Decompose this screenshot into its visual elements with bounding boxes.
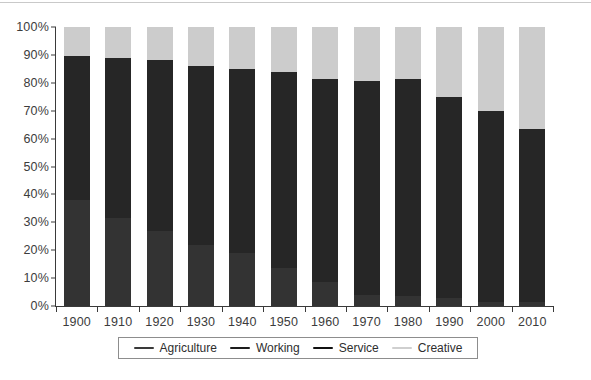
x-axis-tick-label: 1920 [145, 315, 174, 329]
legend-item-agriculture[interactable]: Agriculture [134, 341, 217, 355]
y-axis-tick-label: 10% [23, 271, 49, 285]
y-axis-tick-mark [51, 166, 56, 167]
bar-segment-creative [147, 27, 173, 60]
y-axis-tick-label: 0% [31, 299, 49, 313]
x-axis-tick-label: 1910 [104, 315, 133, 329]
bar-segment-working [229, 69, 255, 253]
bar-segment-agriculture [436, 298, 462, 306]
legend-label: Service [339, 341, 379, 355]
y-axis-tick-label: 60% [23, 132, 49, 146]
y-axis-tick-label: 80% [23, 76, 49, 90]
legend-item-creative[interactable]: Creative [392, 341, 463, 355]
bar-1940 [229, 27, 255, 306]
y-axis-tick-mark [51, 278, 56, 279]
x-axis-tick-label: 1980 [394, 315, 423, 329]
legend-label: Creative [418, 341, 463, 355]
x-axis-tick-label: 1960 [311, 315, 340, 329]
chart-legend: AgricultureWorkingServiceCreative [118, 337, 478, 359]
x-axis-tick-mark [56, 306, 57, 312]
legend-item-working[interactable]: Working [230, 341, 300, 355]
bar-segment-working [478, 111, 504, 302]
plot-area: 0%10%20%30%40%50%60%70%80%90%100% [56, 27, 553, 306]
bar-segment-creative [478, 27, 504, 111]
bar-1970 [354, 27, 380, 306]
bar-segment-working [64, 56, 90, 200]
x-axis-tick-mark [180, 306, 181, 312]
legend-line-icon [230, 347, 250, 350]
bar-segment-working [519, 129, 545, 302]
y-axis-tick-label: 20% [23, 243, 49, 257]
bar-segment-creative [395, 27, 421, 79]
x-axis-tick-mark [97, 306, 98, 312]
bar-1980 [395, 27, 421, 306]
bar-1900 [64, 27, 90, 306]
bar-segment-creative [188, 27, 214, 66]
bar-segment-agriculture [229, 253, 255, 306]
x-axis-tick-label: 2000 [477, 315, 506, 329]
y-axis-tick-label: 30% [23, 215, 49, 229]
legend-line-icon [134, 347, 154, 350]
y-axis-tick-label: 40% [23, 187, 49, 201]
x-axis-tick-mark [222, 306, 223, 312]
bar-segment-agriculture [478, 302, 504, 306]
bar-segment-agriculture [64, 200, 90, 306]
bar-segment-creative [229, 27, 255, 69]
y-axis-tick-mark [51, 222, 56, 223]
x-axis-tick-label: 1900 [62, 315, 91, 329]
bar-segment-agriculture [312, 282, 338, 306]
x-axis-tick-mark [263, 306, 264, 312]
x-axis-tick-mark [470, 306, 471, 312]
bar-1990 [436, 27, 462, 306]
y-axis-tick-label: 90% [23, 48, 49, 62]
bar-1910 [105, 27, 131, 306]
y-axis-tick-label: 100% [16, 20, 49, 34]
x-axis-tick-label: 1970 [352, 315, 381, 329]
x-axis-tick-label: 1930 [187, 315, 216, 329]
x-axis-tick-mark [305, 306, 306, 312]
bar-segment-creative [436, 27, 462, 97]
x-axis-tick-mark [346, 306, 347, 312]
x-axis-tick-mark [512, 306, 513, 312]
bar-segment-working [354, 81, 380, 294]
bar-segment-agriculture [519, 302, 545, 306]
top-divider [0, 2, 591, 3]
bar-segment-creative [64, 27, 90, 56]
x-axis-tick-label: 2010 [518, 315, 547, 329]
x-axis-tick-label: 1990 [435, 315, 464, 329]
legend-line-icon [392, 347, 412, 350]
bar-1920 [147, 27, 173, 306]
legend-label: Agriculture [160, 341, 217, 355]
y-axis-tick-mark [51, 82, 56, 83]
bar-segment-creative [312, 27, 338, 79]
legend-label: Working [256, 341, 300, 355]
x-axis-tick-label: 1950 [269, 315, 298, 329]
y-axis-tick-mark [51, 54, 56, 55]
bar-segment-creative [271, 27, 297, 72]
bar-segment-agriculture [271, 268, 297, 306]
bar-segment-working [312, 79, 338, 283]
bar-segment-agriculture [354, 295, 380, 306]
x-axis-tick-mark [553, 306, 554, 312]
bar-segment-working [147, 60, 173, 230]
y-axis-tick-mark [51, 250, 56, 251]
y-axis-tick-mark [51, 27, 56, 28]
bar-segment-working [105, 58, 131, 218]
bar-segment-working [188, 66, 214, 245]
bar-segment-working [436, 97, 462, 298]
bar-segment-creative [519, 27, 545, 129]
bar-segment-agriculture [395, 296, 421, 306]
y-axis-tick-mark [51, 110, 56, 111]
bar-segment-agriculture [147, 231, 173, 306]
bar-1930 [188, 27, 214, 306]
bar-segment-agriculture [105, 218, 131, 306]
x-axis-tick-mark [387, 306, 388, 312]
x-axis-tick-mark [429, 306, 430, 312]
bar-2000 [478, 27, 504, 306]
bar-segment-agriculture [188, 245, 214, 306]
x-axis-tick-mark [139, 306, 140, 312]
bar-segment-working [271, 72, 297, 269]
legend-item-service[interactable]: Service [313, 341, 379, 355]
bar-1960 [312, 27, 338, 306]
bar-1950 [271, 27, 297, 306]
y-axis-tick-mark [51, 194, 56, 195]
